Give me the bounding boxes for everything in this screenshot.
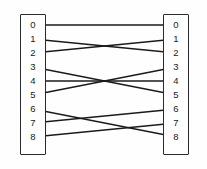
right-node-label-3: 3	[169, 62, 183, 72]
right-node-label-8: 8	[169, 132, 183, 142]
edge-group	[33, 25, 176, 137]
right-node-label-4: 4	[169, 76, 183, 86]
left-node-label-5: 5	[26, 90, 40, 100]
right-node-label-6: 6	[169, 104, 183, 114]
right-node-label-0: 0	[169, 20, 183, 30]
left-node-label-6: 6	[26, 104, 40, 114]
right-node-label-7: 7	[169, 118, 183, 128]
left-node-label-2: 2	[26, 48, 40, 58]
edge-7-to-6	[33, 109, 176, 123]
left-node-label-8: 8	[26, 132, 40, 142]
edge-8-to-7	[33, 123, 176, 137]
right-node-label-5: 5	[169, 90, 183, 100]
edge-6-to-8	[33, 109, 176, 137]
diagram-canvas: 012345678 012345678	[0, 0, 207, 169]
left-node-label-3: 3	[26, 62, 40, 72]
left-node-label-1: 1	[26, 34, 40, 44]
right-node-label-1: 1	[169, 34, 183, 44]
right-node-label-2: 2	[169, 48, 183, 58]
left-node-label-0: 0	[26, 20, 40, 30]
left-node-label-4: 4	[26, 76, 40, 86]
left-node-label-7: 7	[26, 118, 40, 128]
